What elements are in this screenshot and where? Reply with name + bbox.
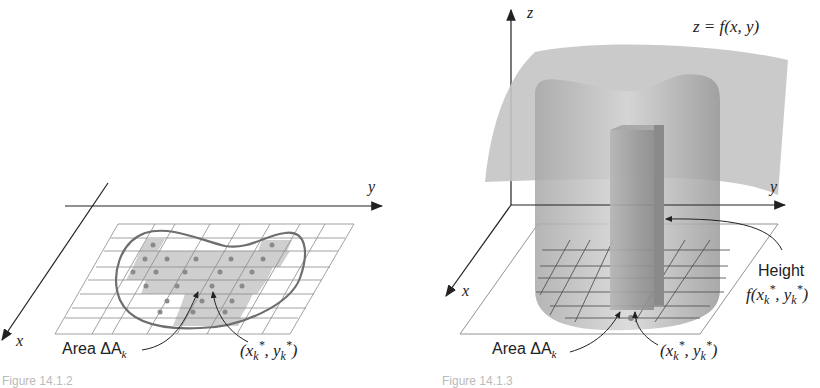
grid-region-diagram xyxy=(0,0,410,382)
z-axis-label: z xyxy=(527,4,533,22)
surface-label: z = f(x, y) xyxy=(693,17,759,37)
right-caption: Figure 14.1.3 xyxy=(442,374,513,388)
y-axis-label: y xyxy=(770,178,777,196)
point-label: (xk*, yk*) xyxy=(240,338,297,364)
x-axis xyxy=(446,205,511,296)
right-figure: z z = f(x, y) y x Height f(xk*, yk*) Are… xyxy=(410,0,820,382)
left-figure: y x Area ΔAk (xk*, yk*) Figure 14.1.2 xyxy=(0,0,410,382)
area-label: Area ΔAk xyxy=(62,340,127,360)
volume-diagram xyxy=(410,0,820,382)
y-axis-label: y xyxy=(368,178,375,196)
x-axis-label: x xyxy=(462,282,469,300)
x-axis-label: x xyxy=(16,332,23,350)
height-label: Height xyxy=(758,262,804,280)
height-expression: f(xk*, yk*) xyxy=(746,282,808,308)
shaded-cells xyxy=(126,239,292,326)
column xyxy=(610,125,664,321)
point-label: (xk*, yk*) xyxy=(660,338,717,364)
left-caption: Figure 14.1.2 xyxy=(2,374,73,388)
area-label: Area ΔAk xyxy=(492,340,557,360)
